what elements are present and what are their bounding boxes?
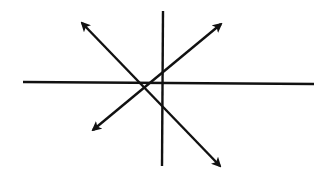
vertical-line — [162, 11, 163, 166]
horizontal-line — [23, 82, 314, 84]
diagonal-sw-ne — [93, 24, 221, 130]
diagram-canvas — [0, 0, 330, 178]
intersecting-lines-diagram — [0, 0, 330, 178]
diagonal-nw-se — [82, 23, 220, 166]
